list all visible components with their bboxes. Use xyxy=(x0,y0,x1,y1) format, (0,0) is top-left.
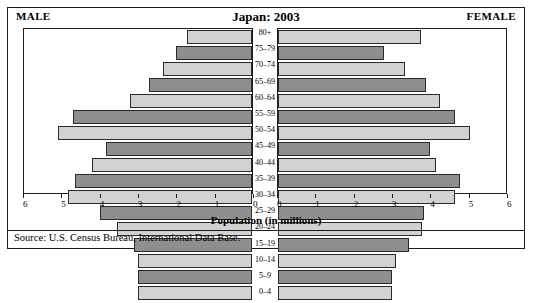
bar-60-64 xyxy=(130,94,252,108)
table-row xyxy=(278,237,506,253)
table-row xyxy=(24,157,252,173)
source-divider xyxy=(8,230,524,231)
female-axis-ticks: 0123456 xyxy=(277,194,507,212)
bar-10-14 xyxy=(138,254,252,268)
table-row xyxy=(24,29,252,45)
age-label-5-9: 5–9 xyxy=(253,271,277,287)
age-group-axis: 80+75–7970–7465–6960–6455–5950–5445–4940… xyxy=(253,28,277,194)
table-row xyxy=(278,45,506,61)
table-row xyxy=(24,173,252,189)
age-label-50-54: 50–54 xyxy=(253,125,277,141)
bar-60-64 xyxy=(278,94,440,108)
source-note: Source: U.S. Census Bureau, Internationa… xyxy=(14,232,240,243)
age-label-40-44: 40–44 xyxy=(253,158,277,174)
tick-mark-icon xyxy=(430,194,431,198)
table-row xyxy=(278,157,506,173)
population-pyramid-figure: MALE Japan: 2003 FEMALE 80+75–7970–7465–… xyxy=(7,7,525,249)
table-row xyxy=(24,109,252,125)
bar-45-49 xyxy=(278,142,430,156)
tick-mark-icon xyxy=(253,194,254,198)
table-row xyxy=(278,61,506,77)
female-bars-panel xyxy=(277,28,507,194)
age-label-15-19: 15–19 xyxy=(253,239,277,255)
bar-40-44 xyxy=(92,158,252,172)
male-axis-ticks: 6543210 xyxy=(23,194,253,212)
bar-65-69 xyxy=(278,78,426,92)
axis-title: Population (in millions) xyxy=(8,214,524,226)
bar-75-79 xyxy=(176,46,252,60)
bar-65-69 xyxy=(149,78,252,92)
bar-5-9 xyxy=(138,270,252,284)
table-row xyxy=(24,61,252,77)
bar-5-9 xyxy=(278,270,392,284)
table-row xyxy=(278,29,506,45)
table-row xyxy=(24,269,252,285)
figure-header: MALE Japan: 2003 FEMALE xyxy=(8,8,524,28)
table-row xyxy=(278,253,506,269)
age-label-45-49: 45–49 xyxy=(253,141,277,157)
table-row xyxy=(24,253,252,269)
bar-10-14 xyxy=(278,254,396,268)
bar-50-54 xyxy=(58,126,252,140)
age-label-60-64: 60–64 xyxy=(253,93,277,109)
age-label-75-79: 75–79 xyxy=(253,44,277,60)
bar-50-54 xyxy=(278,126,470,140)
bar-55-59 xyxy=(278,110,455,124)
tick-mark-icon xyxy=(469,194,470,198)
bar-70-74 xyxy=(278,62,405,76)
tick-mark-icon xyxy=(215,194,216,198)
bar-0-4 xyxy=(138,286,252,300)
table-row xyxy=(24,285,252,301)
bar-0-4 xyxy=(278,286,392,300)
table-row xyxy=(278,173,506,189)
table-row xyxy=(24,93,252,109)
male-bars-panel xyxy=(23,28,253,194)
tick-mark-icon xyxy=(507,194,508,198)
tick-mark-icon xyxy=(61,194,62,198)
tick-mark-icon xyxy=(138,194,139,198)
bar-15-19 xyxy=(278,238,409,252)
female-bar-rows xyxy=(278,29,506,193)
bar-45-49 xyxy=(106,142,252,156)
bar-40-44 xyxy=(278,158,436,172)
age-label-70-74: 70–74 xyxy=(253,60,277,76)
bar-35-39 xyxy=(75,174,252,188)
tick-mark-icon xyxy=(392,194,393,198)
bar-70-74 xyxy=(163,62,252,76)
bar-75-79 xyxy=(278,46,384,60)
age-label-55-59: 55–59 xyxy=(253,109,277,125)
table-row xyxy=(24,141,252,157)
bar-35-39 xyxy=(278,174,460,188)
tick-mark-icon xyxy=(315,194,316,198)
table-row xyxy=(278,141,506,157)
table-row xyxy=(278,125,506,141)
table-row xyxy=(24,77,252,93)
table-row xyxy=(278,285,506,301)
table-row xyxy=(24,125,252,141)
tick-mark-icon xyxy=(23,194,24,198)
tick-mark-icon xyxy=(176,194,177,198)
age-label-65-69: 65–69 xyxy=(253,77,277,93)
age-label-35-39: 35–39 xyxy=(253,174,277,190)
tick-mark-icon xyxy=(100,194,101,198)
page-title: Japan: 2003 xyxy=(8,9,524,25)
age-label-80plus: 80+ xyxy=(253,28,277,44)
tick-mark-icon xyxy=(354,194,355,198)
bar-80plus xyxy=(187,30,252,44)
age-label-0-4: 0–4 xyxy=(253,287,277,303)
table-row xyxy=(278,269,506,285)
table-row xyxy=(24,45,252,61)
x-axis: 6543210 0123456 xyxy=(8,194,526,212)
bar-55-59 xyxy=(73,110,252,124)
table-row xyxy=(278,109,506,125)
tick-mark-icon xyxy=(277,194,278,198)
table-row xyxy=(278,77,506,93)
male-bar-rows xyxy=(24,29,252,193)
female-panel-label: FEMALE xyxy=(467,10,516,22)
bar-80plus xyxy=(278,30,421,44)
table-row xyxy=(278,93,506,109)
age-label-10-14: 10–14 xyxy=(253,255,277,271)
